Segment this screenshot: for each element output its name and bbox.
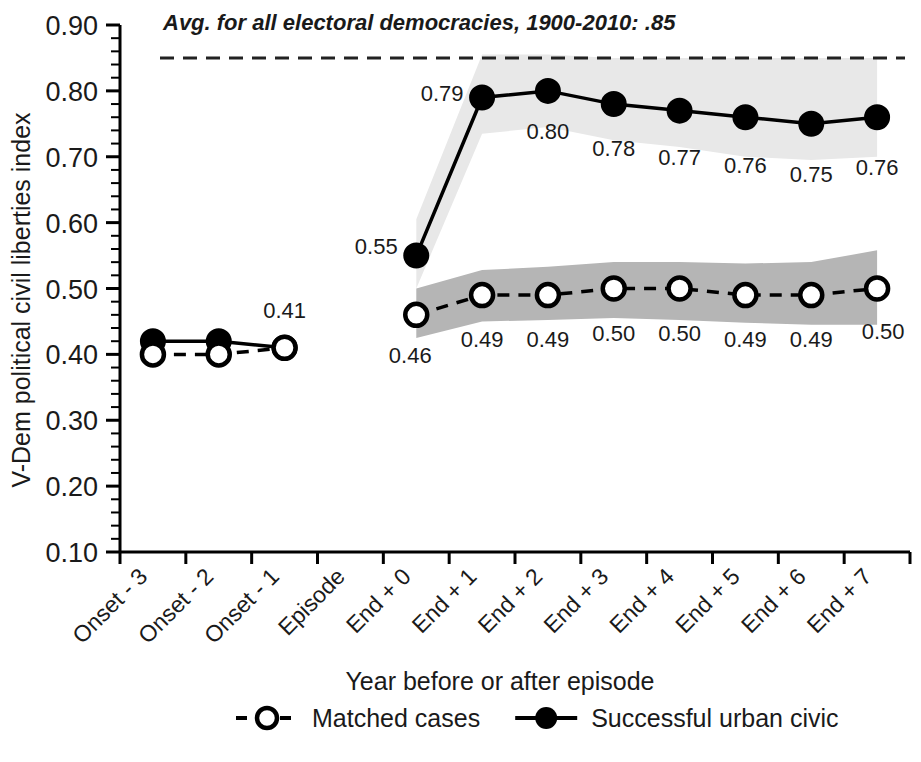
- y-tick-label: 0.80: [45, 77, 98, 107]
- data-point-label: 0.55: [355, 234, 398, 259]
- data-point-label: 0.49: [790, 327, 833, 352]
- annotation-text: Avg. for all electoral democracies, 1900…: [162, 10, 676, 35]
- data-point-marker-open: [800, 284, 822, 306]
- y-tick-label: 0.20: [45, 472, 98, 502]
- y-tick-label: 0.10: [45, 538, 98, 568]
- line-chart-canvas: 0.900.800.700.600.500.400.300.200.10 0.4…: [0, 0, 921, 762]
- data-point-label: 0.49: [461, 327, 504, 352]
- data-point-label: 0.50: [592, 321, 635, 346]
- data-point-label: 0.79: [421, 81, 464, 106]
- data-point-label: 0.78: [592, 136, 635, 161]
- y-tick-label: 0.50: [45, 275, 98, 305]
- data-point-marker-filled: [470, 85, 494, 109]
- data-point-label: 0.76: [724, 153, 767, 178]
- data-point-marker-filled: [536, 79, 560, 103]
- data-point-marker-open: [142, 343, 164, 365]
- data-point-label: 0.76: [856, 155, 899, 180]
- data-point-label: 0.75: [790, 162, 833, 187]
- legend-item[interactable]: Matched cases: [236, 704, 480, 732]
- data-point-label: 0.50: [862, 319, 905, 344]
- data-point-label: 0.80: [527, 119, 570, 144]
- legend-label: Successful urban civic: [591, 704, 838, 732]
- legend-marker-filled: [535, 707, 557, 729]
- y-tick-label: 0.60: [45, 209, 98, 239]
- data-point-marker-filled: [602, 92, 626, 116]
- data-point-marker-filled: [733, 105, 757, 129]
- data-point-marker-filled: [799, 112, 823, 136]
- y-tick-labels-group: 0.900.800.700.600.500.400.300.200.10: [45, 11, 98, 568]
- legend-label: Matched cases: [312, 704, 480, 732]
- x-axis-title: Year before or after episode: [345, 667, 654, 695]
- y-axis-title: V-Dem political civil liberties index: [7, 112, 35, 488]
- data-point-marker-open: [603, 278, 625, 300]
- data-point-marker-filled: [668, 99, 692, 123]
- data-point-marker-open: [734, 284, 756, 306]
- data-point-label: 0.41: [263, 298, 306, 323]
- data-point-marker-open: [471, 284, 493, 306]
- data-point-label: 0.49: [527, 327, 570, 352]
- chart-figure: 0.900.800.700.600.500.400.300.200.10 0.4…: [0, 0, 921, 762]
- y-tick-label: 0.90: [45, 11, 98, 41]
- legend-marker-open: [257, 708, 277, 728]
- data-point-marker-open: [208, 343, 230, 365]
- data-point-marker-open: [669, 278, 691, 300]
- data-point-marker-filled: [404, 244, 428, 268]
- data-point-label: 0.49: [724, 327, 767, 352]
- data-point-marker-open: [405, 304, 427, 326]
- y-tick-label: 0.70: [45, 143, 98, 173]
- data-point-label: 0.50: [658, 321, 701, 346]
- data-point-marker-open: [274, 337, 296, 359]
- data-point-marker-open: [537, 284, 559, 306]
- data-point-label: 0.46: [389, 343, 432, 368]
- y-tick-label: 0.30: [45, 406, 98, 436]
- y-tick-label: 0.40: [45, 340, 98, 370]
- data-point-label: 0.77: [658, 145, 701, 170]
- data-point-marker-filled: [865, 105, 889, 129]
- data-point-marker-open: [866, 278, 888, 300]
